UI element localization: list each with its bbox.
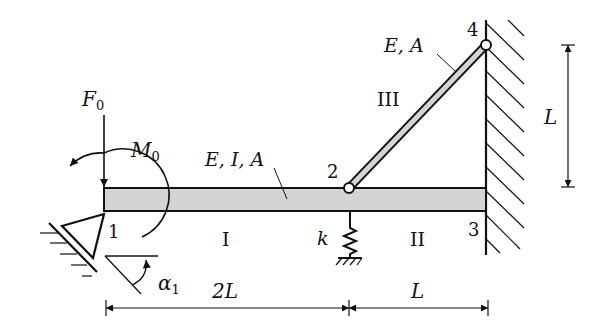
angle-indicator <box>105 256 158 294</box>
dimension-L-bottom-label: L <box>410 279 424 303</box>
node-4-label: 4 <box>467 19 478 40</box>
fixed-wall <box>486 20 524 255</box>
structure-diagram: F0 M0 E, I, A E, A I II III 1 2 3 4 k α1… <box>0 0 598 330</box>
dimension-L-vertical-label: L <box>543 105 557 129</box>
segment-III-label: III <box>377 88 400 110</box>
moment-label: M0 <box>130 138 160 164</box>
bar-III <box>349 45 486 188</box>
spring-icon <box>336 211 362 265</box>
force-label: F0 <box>81 87 104 113</box>
segment-I-label: I <box>222 228 230 250</box>
segment-II-label: II <box>410 228 425 250</box>
bar-props-leader <box>437 54 456 72</box>
hinge-node-2 <box>344 183 354 193</box>
beam-props-label: E, I, A <box>204 148 264 170</box>
angle-label: α1 <box>158 271 180 297</box>
dimension-2L-label: 2L <box>211 279 238 303</box>
wall-hatching <box>486 20 524 253</box>
beam <box>104 188 486 211</box>
dimension-vertical <box>561 45 575 187</box>
bar-props-label: E, A <box>383 34 424 56</box>
roller-support-icon <box>40 214 104 276</box>
spring-label: k <box>317 227 329 249</box>
node-3-label: 3 <box>468 219 479 240</box>
dimension-bottom <box>106 300 488 316</box>
hinge-node-4 <box>481 40 491 50</box>
node-2-label: 2 <box>327 161 338 182</box>
node-1-label: 1 <box>108 221 119 242</box>
